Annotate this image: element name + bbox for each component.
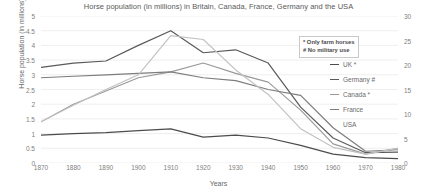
- y-tick-left: 3.5: [26, 57, 35, 64]
- x-tick: 1870: [34, 164, 48, 171]
- x-tick: 1890: [99, 164, 113, 171]
- y-axis-left: 00.511.522.533.544.55: [0, 16, 38, 163]
- chart-legend: UK *Germany #Canada *FranceUSA: [330, 57, 410, 132]
- x-tick: 1900: [131, 164, 145, 171]
- x-axis-title: Years: [0, 180, 437, 187]
- legend-swatch-icon: [330, 124, 339, 125]
- y-tick-left: 4: [31, 42, 35, 49]
- legend-label: USA: [343, 121, 356, 128]
- chart-annotation-box: * Only farm horses# No military use: [299, 36, 359, 58]
- legend-swatch-icon: [330, 79, 339, 80]
- y-tick-left: 4.5: [26, 27, 35, 34]
- x-axis: 1870188018901900191019201930194019501960…: [41, 164, 398, 176]
- legend-item-germany[interactable]: Germany #: [330, 72, 410, 87]
- y-tick-right: 25: [404, 37, 411, 44]
- chart-container: Horse population (in millions) in Britai…: [0, 0, 437, 195]
- annotation-line: # No military use: [303, 46, 355, 54]
- legend-swatch-icon: [330, 94, 339, 95]
- y-tick-left: 2.5: [26, 86, 35, 93]
- x-tick: 1950: [293, 164, 307, 171]
- legend-label: France: [343, 106, 363, 113]
- y-tick-right: 5: [404, 135, 408, 142]
- y-tick-right: 30: [404, 13, 411, 20]
- x-tick: 1880: [66, 164, 80, 171]
- legend-label: Canada *: [343, 91, 370, 98]
- y-tick-left: 1.5: [26, 115, 35, 122]
- x-tick: 1940: [261, 164, 275, 171]
- y-tick-left: 5: [31, 13, 35, 20]
- annotation-line: * Only farm horses: [303, 38, 355, 46]
- legend-swatch-icon: [330, 109, 339, 110]
- legend-item-usa[interactable]: USA: [330, 117, 410, 132]
- x-tick: 1980: [391, 164, 405, 171]
- x-tick: 1930: [228, 164, 242, 171]
- x-tick: 1960: [326, 164, 340, 171]
- legend-swatch-icon: [330, 64, 339, 65]
- y-tick-left: 1: [31, 130, 35, 137]
- legend-item-canada[interactable]: Canada *: [330, 87, 410, 102]
- y-tick-left: 3: [31, 71, 35, 78]
- legend-label: UK *: [343, 61, 356, 68]
- chart-title: Horse population (in millions) in Britai…: [0, 2, 437, 11]
- legend-item-france[interactable]: France: [330, 102, 410, 117]
- x-tick: 1920: [196, 164, 210, 171]
- legend-label: Germany #: [343, 76, 375, 83]
- y-tick-left: 2: [31, 101, 35, 108]
- y-tick-left: 0.5: [26, 145, 35, 152]
- x-tick: 1910: [164, 164, 178, 171]
- x-tick: 1970: [358, 164, 372, 171]
- legend-item-uk[interactable]: UK *: [330, 57, 410, 72]
